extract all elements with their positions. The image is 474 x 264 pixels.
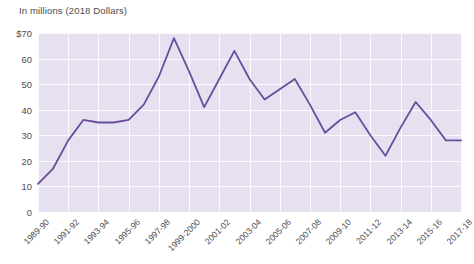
gridline-vertical bbox=[461, 33, 462, 212]
line-series bbox=[38, 33, 461, 212]
series-line bbox=[38, 38, 461, 184]
